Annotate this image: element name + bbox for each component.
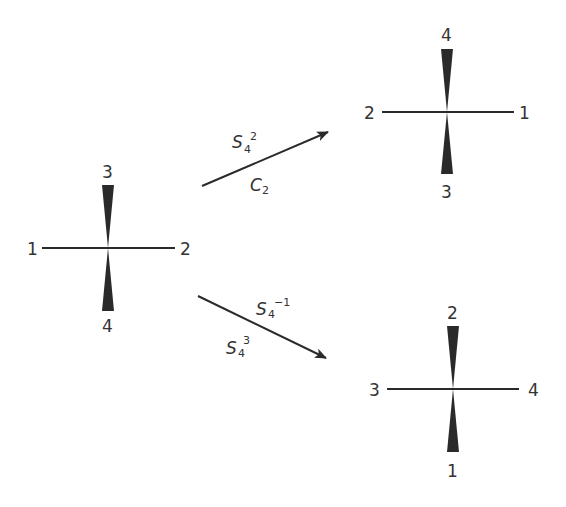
op-base: S [256,299,267,319]
op-subscript: 2 [262,184,269,197]
label-left: 1 [27,239,38,259]
molecule-result-upper: 2 1 4 3 [364,25,530,202]
label-left: 2 [364,103,375,123]
op-base: S [232,132,243,152]
label-bottom: 3 [441,182,452,202]
operation-label-upper-below: C 2 [250,175,269,197]
op-superscript: 2 [250,130,257,143]
op-superscript: 3 [243,334,250,347]
wedge-bond-top [441,49,453,112]
wedge-bond-top [447,326,459,389]
label-top: 3 [102,162,113,182]
op-subscript: 4 [238,347,245,360]
wedge-bond-bottom [102,248,114,311]
label-bottom: 4 [102,316,113,336]
label-top: 4 [441,25,452,45]
molecule-result-lower: 3 4 2 1 [369,303,539,481]
op-subscript: 4 [268,308,275,321]
operation-label-lower-below: S 4 3 [226,334,250,360]
label-top: 2 [447,303,458,323]
diagram-canvas: 1 2 3 4 2 1 4 3 3 4 2 1 [0,0,566,507]
operation-label-lower-above: S 4 −1 [256,296,290,321]
label-right: 1 [519,103,530,123]
op-superscript: −1 [274,296,290,309]
op-base: C [250,175,262,195]
wedge-bond-top [102,185,114,248]
arrow-upper: S 4 2 C 2 [202,130,328,197]
arrow-lower: S 4 −1 S 4 3 [198,296,326,360]
diagram-svg: 1 2 3 4 2 1 4 3 3 4 2 1 [0,0,566,507]
wedge-bond-bottom [441,112,453,174]
op-base: S [226,338,237,358]
operation-label-upper-above: S 4 2 [232,130,257,156]
molecule-start: 1 2 3 4 [27,162,191,336]
arrow-line [202,132,328,186]
label-right: 4 [528,380,539,400]
op-subscript: 4 [244,143,251,156]
label-right: 2 [180,239,191,259]
label-left: 3 [369,380,380,400]
label-bottom: 1 [447,461,458,481]
wedge-bond-bottom [447,389,459,452]
